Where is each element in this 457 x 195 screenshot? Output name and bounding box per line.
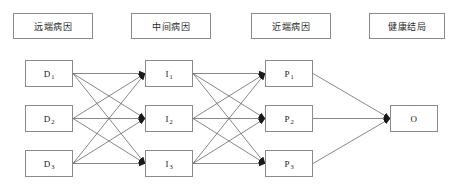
node-o-label: O [411,114,418,124]
header-intermediate-label: 中间病因 [152,20,190,33]
node-p1: P1 [265,60,313,87]
node-p3-label: P3 [285,159,294,169]
node-d3-label: D3 [44,159,54,169]
header-distal-label: 远端病因 [34,20,72,33]
node-o: O [390,105,438,132]
node-d2: D2 [25,105,73,132]
causal-chain-diagram: 远端病因中间病因近端病因健康结局 D1D2D3I1I2I3P1P2P3O [0,0,457,195]
node-d1-base: D [44,69,51,79]
node-i1-subscript: 1 [169,73,173,80]
node-i3: I3 [145,150,193,177]
node-i1: I1 [145,60,193,87]
node-d1-label: D1 [44,69,54,79]
node-i3-label: I3 [166,159,173,169]
node-i2-label: I2 [166,114,173,124]
node-p3: P3 [265,150,313,177]
node-d3: D3 [25,150,73,177]
header-proximal-label: 近端病因 [272,20,310,33]
node-p2-subscript: 2 [290,118,294,125]
node-d2-subscript: 2 [51,118,55,125]
node-d3-base: D [44,159,51,169]
node-p2-label: P2 [285,114,294,124]
node-p1-subscript: 1 [290,73,294,80]
node-p3-subscript: 3 [290,163,294,170]
node-d1-subscript: 1 [51,73,55,80]
node-o-base: O [411,114,418,124]
header-outcome-label: 健康结局 [388,20,426,33]
node-i2: I2 [145,105,193,132]
header-intermediate: 中间病因 [131,13,211,39]
node-d1: D1 [25,60,73,87]
node-d3-subscript: 3 [51,163,55,170]
node-d2-label: D2 [44,114,54,124]
node-i2-subscript: 2 [169,118,173,125]
node-d2-base: D [44,114,51,124]
node-p2: P2 [265,105,313,132]
header-proximal: 近端病因 [251,13,331,39]
edge-p3-to-o [313,119,390,164]
header-distal: 远端病因 [13,13,93,39]
header-outcome: 健康结局 [369,13,445,39]
edge-p1-to-o [313,74,390,119]
node-i1-label: I1 [166,69,173,79]
node-p1-label: P1 [285,69,294,79]
edge-group [73,74,390,164]
node-i3-subscript: 3 [169,163,173,170]
